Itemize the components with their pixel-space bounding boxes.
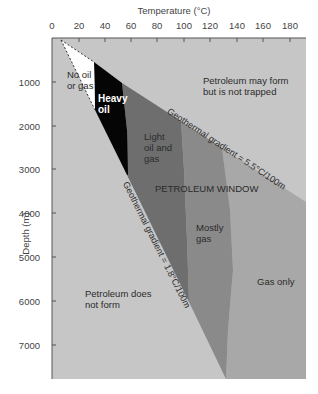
x-tick-label: 0 xyxy=(49,20,54,31)
x-tick-label: 60 xyxy=(126,20,137,31)
x-tick-label: 140 xyxy=(229,20,245,31)
label-line: Mostly xyxy=(196,222,223,233)
label-no-oil-gas: No oil or gas xyxy=(67,69,93,91)
label-line: not form xyxy=(85,299,152,310)
label-line: oil and xyxy=(144,142,172,153)
y-tick-label: 4000 xyxy=(10,208,40,219)
y-tick-label: 1000 xyxy=(10,77,40,88)
label-does-not-form: Petroleum does not form xyxy=(85,288,152,310)
label-line: but is not trapped xyxy=(203,86,289,97)
x-tick-label: 40 xyxy=(100,20,111,31)
label-gas-only: Gas only xyxy=(257,276,295,287)
label-line: Petroleum may form xyxy=(203,75,289,86)
x-axis-title: Temperature (°C) xyxy=(0,5,318,16)
y-tick-label: 5000 xyxy=(10,252,40,263)
label-mostly-gas: Mostly gas xyxy=(196,222,223,244)
x-tick-label: 160 xyxy=(255,20,271,31)
label-line: Petroleum does xyxy=(85,288,152,299)
y-tick-label: 7000 xyxy=(10,340,40,351)
label-line: gas xyxy=(144,153,172,164)
x-tick-label: 20 xyxy=(74,20,85,31)
x-tick-label: 120 xyxy=(202,20,218,31)
label-line: Heavy xyxy=(98,93,127,104)
label-line: or gas xyxy=(67,80,93,91)
diagram-canvas xyxy=(0,0,318,394)
x-tick-label: 100 xyxy=(176,20,192,31)
y-tick-label: 2000 xyxy=(10,121,40,132)
label-line: oil xyxy=(98,104,127,115)
label-heavy-oil: Heavy oil xyxy=(98,93,127,115)
label-line: gas xyxy=(196,233,223,244)
y-tick-label: 3000 xyxy=(10,164,40,175)
x-tick-label: 180 xyxy=(282,20,298,31)
label-light-oil-gas: Light oil and gas xyxy=(144,131,172,164)
y-tick-label: 6000 xyxy=(10,296,40,307)
x-tick-label: 80 xyxy=(152,20,163,31)
label-line: No oil xyxy=(67,69,93,80)
label-may-form: Petroleum may form but is not trapped xyxy=(203,75,289,97)
label-line: Light xyxy=(144,131,172,142)
label-petroleum-window: PETROLEUM WINDOW xyxy=(155,183,258,194)
